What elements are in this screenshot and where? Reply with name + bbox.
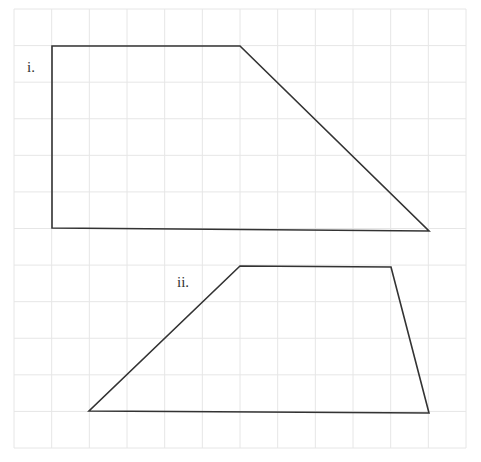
trapezoid-ii [89, 266, 429, 413]
shape-label-i: i. [27, 59, 35, 76]
shape-label-ii: ii. [177, 274, 189, 291]
grid-paper [0, 0, 481, 462]
